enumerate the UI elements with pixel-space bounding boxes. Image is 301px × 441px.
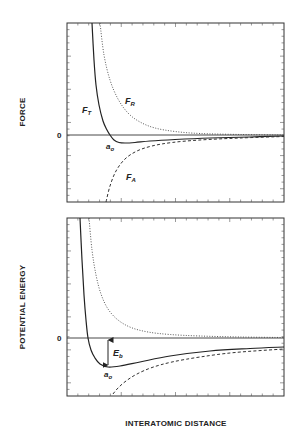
x-axis-title: INTERATOMIC DISTANCE	[125, 419, 227, 428]
a0-energy-label: ao	[104, 370, 112, 380]
force-panel: 0 FORCE FT FR FA ao	[18, 23, 284, 202]
energy-axis-title: POTENTIAL ENERGY	[18, 264, 27, 349]
ft-label: FT	[82, 105, 93, 116]
repulsive-energy-curve	[89, 218, 284, 338]
energy-panel: 0 POTENTIAL ENERGY Eb ao	[18, 218, 284, 396]
fr-repulsive-force-curve	[100, 23, 284, 135]
force-axis-title: FORCE	[18, 97, 27, 126]
energy-plot-frame	[67, 218, 284, 396]
force-plot-frame	[67, 23, 284, 202]
energy-axis-ticks	[67, 218, 284, 396]
net-energy-curve	[80, 218, 284, 367]
force-zero-tick-label: 0	[57, 131, 62, 140]
fa-attractive-force-curve	[106, 137, 284, 203]
force-axis-ticks	[67, 23, 284, 202]
a0-force-label: ao	[106, 142, 114, 152]
energy-zero-tick-label: 0	[57, 334, 62, 343]
eb-label: Eb	[113, 348, 123, 359]
attractive-energy-curve	[113, 349, 284, 394]
fr-label: FR	[125, 96, 136, 107]
figure: 0 FORCE FT FR FA ao 0 POTENTIAL ENERGY E…	[0, 0, 301, 441]
ft-total-force-curve	[92, 23, 284, 143]
fa-label: FA	[126, 172, 136, 183]
